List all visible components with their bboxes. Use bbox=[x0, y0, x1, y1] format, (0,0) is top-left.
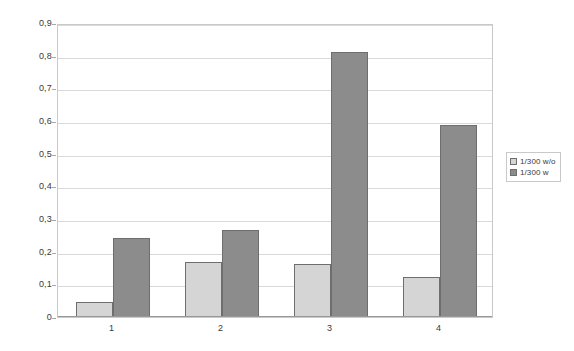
legend-swatch-icon bbox=[510, 158, 517, 165]
y-tick-label: 0,3 bbox=[6, 215, 52, 224]
x-tick-label: 3 bbox=[275, 323, 384, 333]
y-tick-label: 0,9 bbox=[6, 19, 52, 28]
y-tick-mark bbox=[52, 318, 56, 319]
bar-group bbox=[294, 25, 368, 317]
y-tick-mark bbox=[52, 24, 56, 25]
bar-1-series-0 bbox=[76, 302, 113, 317]
y-tick-label: 0,6 bbox=[6, 117, 52, 126]
legend: 1/300 w/o1/300 w bbox=[506, 152, 561, 182]
legend-label: 1/300 w/o bbox=[520, 157, 556, 166]
bar-2-series-1 bbox=[222, 230, 259, 317]
y-tick-label: 0,2 bbox=[6, 248, 52, 257]
bar-4-series-0 bbox=[403, 277, 440, 317]
y-tick-label: 0,8 bbox=[6, 52, 52, 61]
x-tick-label: 2 bbox=[166, 323, 275, 333]
legend-item: 1/300 w/o bbox=[510, 156, 556, 167]
y-tick-label: 0,5 bbox=[6, 150, 52, 159]
x-axis: 1234 bbox=[57, 323, 493, 343]
y-tick-label: 0,1 bbox=[6, 280, 52, 289]
legend-item: 1/300 w bbox=[510, 167, 556, 178]
y-tick-mark bbox=[52, 89, 56, 90]
bar-chart: 0,90,80,70,60,50,40,30,20,10 1234 1/300 … bbox=[0, 0, 574, 351]
y-tick-mark bbox=[52, 155, 56, 156]
y-tick-mark bbox=[52, 253, 56, 254]
bar-4-series-1 bbox=[440, 125, 477, 317]
bar-group bbox=[185, 25, 259, 317]
x-axis-baseline bbox=[58, 316, 492, 317]
bar-3-series-0 bbox=[294, 264, 331, 317]
bar-3-series-1 bbox=[331, 52, 368, 317]
legend-swatch-icon bbox=[510, 169, 517, 176]
y-tick-mark bbox=[52, 187, 56, 188]
plot-area bbox=[57, 24, 493, 318]
y-tick-mark bbox=[52, 122, 56, 123]
bar-group bbox=[403, 25, 477, 317]
bar-2-series-0 bbox=[185, 262, 222, 317]
x-tick-label: 1 bbox=[57, 323, 166, 333]
y-tick-mark bbox=[52, 57, 56, 58]
y-tick-mark bbox=[52, 285, 56, 286]
y-tick-mark bbox=[52, 220, 56, 221]
y-tick-label: 0,7 bbox=[6, 84, 52, 93]
y-tick-label: 0 bbox=[6, 313, 52, 322]
bar-1-series-1 bbox=[113, 238, 150, 317]
y-axis: 0,90,80,70,60,50,40,30,20,10 bbox=[0, 0, 52, 351]
x-tick-label: 4 bbox=[384, 323, 493, 333]
legend-label: 1/300 w bbox=[520, 168, 549, 177]
y-tick-label: 0,4 bbox=[6, 182, 52, 191]
bars-layer bbox=[58, 25, 492, 317]
bar-group bbox=[76, 25, 150, 317]
